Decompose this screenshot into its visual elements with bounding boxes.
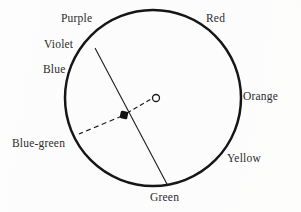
open-point-marker [153, 95, 160, 102]
wheel-label-violet: Violet [44, 38, 73, 50]
filled-point-marker [119, 110, 128, 119]
wheel-label-purple: Purple [61, 12, 92, 24]
wheel-label-orange: Orange [243, 90, 278, 102]
color-circle-figure: Purple Red Violet Blue Orange Blue-green… [0, 0, 301, 212]
violet-green-chord-line [95, 48, 168, 186]
center-connector-dashed-line [127, 99, 151, 113]
wheel-label-red: Red [206, 12, 225, 24]
wheel-label-blue-green: Blue-green [12, 137, 65, 149]
wheel-label-yellow: Yellow [227, 152, 261, 164]
wheel-label-green: Green [150, 191, 179, 203]
color-circle-diagram [0, 0, 301, 212]
wheel-label-blue: Blue [43, 63, 66, 75]
blue-green-dashed-ray [79, 116, 122, 134]
